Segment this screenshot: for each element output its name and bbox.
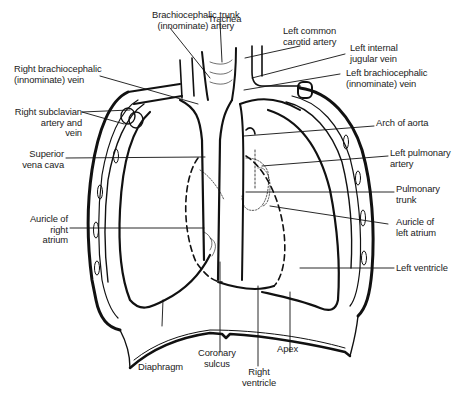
- label-auricle-of-left-atrium: Auricle of left atrium: [396, 217, 436, 238]
- label-right-subclavian-artery-and-vein: Right subclavian artery and vein: [10, 107, 82, 139]
- label-right-ventricle: Right ventricle: [242, 367, 276, 388]
- great-vessels: [180, 99, 300, 280]
- label-apex: Apex: [277, 344, 298, 355]
- label-pulmonary-trunk: Pulmonary trunk: [396, 184, 440, 205]
- label-left-pulmonary-artery: Left pulmonary artery: [390, 148, 451, 169]
- label-arch-of-aorta: Arch of aorta: [376, 118, 428, 129]
- label-superior-vena-cava: Superior vena cava: [14, 149, 64, 170]
- label-coronary-sulcus: Coronary sulcus: [198, 348, 236, 369]
- label-trachea: Trachea: [208, 14, 241, 25]
- lung-outlines: [119, 110, 338, 310]
- label-left-ventricle: Left ventricle: [396, 263, 448, 274]
- thorax-heart-diagram: Brachiocephalic trunk (innominate) arter…: [0, 0, 460, 399]
- label-left-common-carotid-artery: Left common carotid artery: [283, 26, 336, 47]
- label-left-internal-jugular-vein: Left internal jugular vein: [350, 43, 398, 64]
- label-auricle-of-right-atrium: Auricle of right atrium: [16, 214, 68, 246]
- label-diaphragm: Diaphragm: [138, 362, 183, 373]
- label-right-brachiocephalic-vein: Right brachiocephalic (innominate) vein: [14, 64, 102, 85]
- label-left-brachiocephalic-vein: Left brachiocephalic (innominate) vein: [346, 68, 427, 89]
- heart-outline: [186, 156, 285, 289]
- thoracic-wall: [88, 88, 373, 330]
